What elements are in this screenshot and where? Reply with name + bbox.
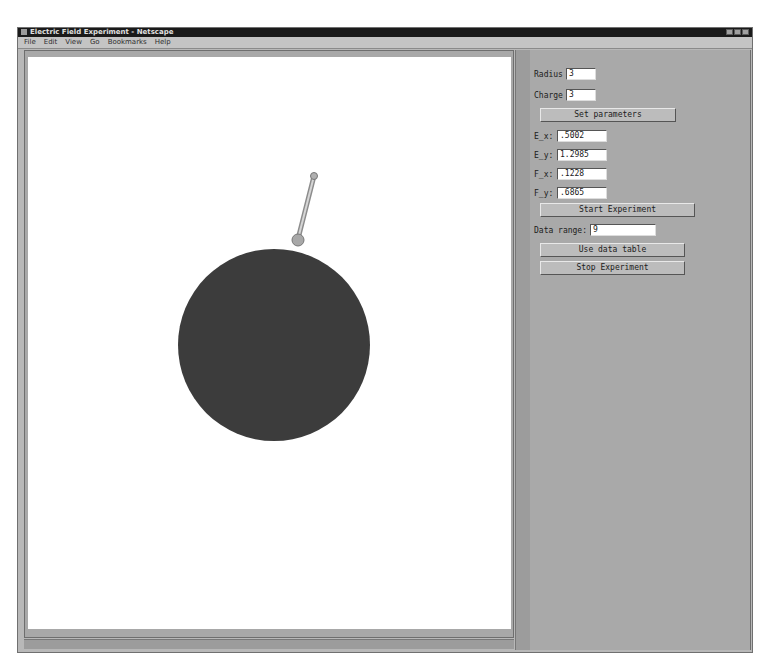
app-icon [21, 29, 27, 35]
charged-sphere [178, 249, 370, 441]
charge-row: Charge 3 [534, 89, 596, 101]
window-title: Electric Field Experiment - Netscape [30, 28, 173, 36]
field-drawing [28, 57, 511, 629]
title-bar: Electric Field Experiment - Netscape [18, 28, 752, 37]
test-charge-probe[interactable] [292, 234, 304, 246]
readout-ex-row: E_x: .5002 [534, 130, 607, 142]
menu-go[interactable]: Go [90, 37, 100, 48]
data-range-row: Data range: 9 [534, 224, 656, 236]
probe-handle[interactable] [311, 173, 318, 180]
charge-input[interactable]: 3 [566, 89, 596, 101]
control-panel: Radius 3 Charge 3 Set parameters E_x: .5… [530, 50, 751, 650]
readout-ey-row: E_y: 1.2985 [534, 149, 607, 161]
menu-bookmarks[interactable]: Bookmarks [108, 37, 147, 48]
menu-bar: File Edit View Go Bookmarks Help [18, 37, 752, 49]
set-parameters-button[interactable]: Set parameters [540, 108, 676, 122]
readout-fy-row: F_y: .6865 [534, 187, 607, 199]
menu-help[interactable]: Help [155, 37, 171, 48]
probe-rod-highlight [298, 176, 314, 239]
readout-label: F_y: [534, 189, 554, 198]
stop-experiment-button[interactable]: Stop Experiment [540, 261, 685, 275]
applet-frame [24, 50, 514, 638]
fx-field[interactable]: .1228 [557, 168, 607, 180]
data-range-input[interactable]: 9 [590, 224, 656, 236]
ex-field[interactable]: .5002 [557, 130, 607, 142]
fy-field[interactable]: .6865 [557, 187, 607, 199]
data-range-label: Data range: [534, 226, 587, 235]
browser-window: Electric Field Experiment - Netscape Fil… [17, 27, 753, 653]
experiment-canvas[interactable] [28, 57, 511, 629]
readout-label: E_x: [534, 132, 554, 141]
maximize-button[interactable] [734, 29, 741, 35]
menu-view[interactable]: View [65, 37, 82, 48]
use-data-table-button[interactable]: Use data table [540, 243, 685, 257]
vertical-scrollbar[interactable] [515, 50, 531, 650]
readout-label: E_y: [534, 151, 554, 160]
radius-label: Radius [534, 70, 563, 79]
readout-fx-row: F_x: .1228 [534, 168, 607, 180]
radius-input[interactable]: 3 [566, 68, 596, 80]
window-controls [726, 29, 749, 35]
charge-label: Charge [534, 91, 563, 100]
close-button[interactable] [742, 29, 749, 35]
ey-field[interactable]: 1.2985 [557, 149, 607, 161]
horizontal-scrollbar[interactable] [24, 639, 514, 649]
radius-row: Radius 3 [534, 68, 596, 80]
menu-file[interactable]: File [24, 37, 36, 48]
start-experiment-button[interactable]: Start Experiment [540, 203, 695, 217]
readout-label: F_x: [534, 170, 554, 179]
minimize-button[interactable] [726, 29, 733, 35]
menu-edit[interactable]: Edit [44, 37, 58, 48]
